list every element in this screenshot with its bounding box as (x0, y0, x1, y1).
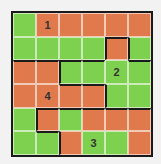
grid-cell[interactable] (13, 84, 36, 108)
grid-cell[interactable] (128, 108, 151, 132)
grid-cell[interactable] (105, 131, 128, 155)
grid-cell[interactable] (13, 37, 36, 61)
grid-cell[interactable] (36, 131, 59, 155)
grid-cell[interactable] (128, 131, 151, 155)
grid-cell[interactable] (105, 108, 128, 132)
region-label: 3 (90, 137, 96, 149)
puzzle-grid: 1243 (11, 11, 153, 157)
grid-cell[interactable] (13, 108, 36, 132)
grid-cell[interactable] (59, 84, 82, 108)
grid-cell[interactable] (105, 13, 128, 37)
grid-cell[interactable]: 4 (36, 84, 59, 108)
grid-cell[interactable] (36, 108, 59, 132)
grid-cell[interactable] (82, 37, 105, 61)
grid-cell[interactable] (82, 84, 105, 108)
grid-cell[interactable] (59, 108, 82, 132)
grid-cell[interactable]: 2 (105, 60, 128, 84)
grid-cell[interactable] (59, 60, 82, 84)
grid-cell[interactable] (59, 13, 82, 37)
grid-cell[interactable] (59, 131, 82, 155)
grid-cell[interactable]: 3 (82, 131, 105, 155)
region-label: 4 (44, 90, 50, 102)
grid-cell[interactable] (128, 37, 151, 61)
grid-cell[interactable] (82, 108, 105, 132)
grid-cell[interactable] (128, 84, 151, 108)
grid-cell[interactable] (36, 60, 59, 84)
grid-cell[interactable] (128, 60, 151, 84)
grid-cell[interactable] (36, 37, 59, 61)
grid-cell[interactable] (105, 84, 128, 108)
region-label: 2 (113, 66, 119, 78)
grid-cell[interactable] (82, 13, 105, 37)
grid-cell[interactable] (13, 13, 36, 37)
grid-cell[interactable] (82, 60, 105, 84)
grid-cell[interactable]: 1 (36, 13, 59, 37)
grid-cell[interactable] (105, 37, 128, 61)
grid-cell[interactable] (128, 13, 151, 37)
region-label: 1 (44, 19, 50, 31)
grid-cell[interactable] (59, 37, 82, 61)
grid-cell[interactable] (13, 60, 36, 84)
grid-cell[interactable] (13, 131, 36, 155)
